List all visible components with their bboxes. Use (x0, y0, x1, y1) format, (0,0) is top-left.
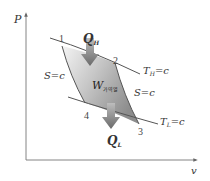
point-4-label: 4 (84, 111, 89, 121)
isotherm-high-eq: =c (155, 65, 169, 76)
point-2-label: 2 (113, 56, 118, 66)
isotherm-high-label: TH=c (143, 66, 169, 77)
heat-out-label: QL (107, 135, 122, 148)
work-symbol: W (92, 79, 103, 92)
isentrope-right-label: S=c (134, 88, 155, 98)
isotherm-low-symbol: T (160, 116, 167, 127)
heat-out-symbol: Q (107, 134, 117, 148)
isotherm-low-eq: =c (171, 116, 185, 127)
y-axis-label: P (14, 14, 21, 25)
point-1-label: 1 (59, 34, 64, 44)
point-3-label: 3 (138, 127, 143, 137)
heat-in-symbol: Q (83, 32, 93, 46)
isotherm-high-symbol: T (143, 65, 150, 76)
isotherm-low-label: TL=c (160, 117, 185, 128)
work-label: W가역열 (92, 80, 118, 92)
x-axis-label: v (191, 166, 197, 176)
heat-in-subscript: H (93, 39, 99, 46)
heat-out-subscript: L (117, 141, 121, 148)
heat-in-label: QH (83, 33, 99, 46)
work-subscript: 가역열 (103, 86, 118, 92)
isentrope-left-label: S=c (44, 71, 65, 81)
